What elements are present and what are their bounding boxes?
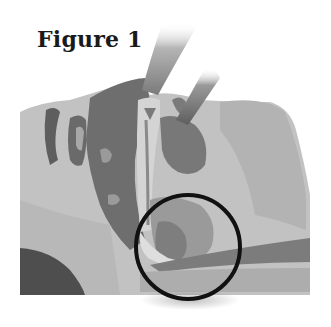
anatomical-illustration [0, 0, 331, 327]
